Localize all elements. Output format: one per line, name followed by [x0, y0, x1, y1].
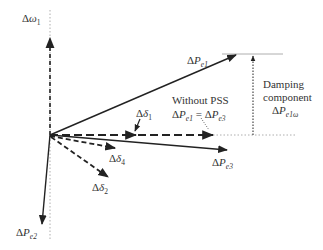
d-delta1-pointer	[135, 119, 140, 131]
d-pe1-label: ΔPe1	[187, 54, 208, 69]
without-pss-title: Without PSS	[172, 94, 229, 106]
phasor-diagram: Δω1 ΔPe1 Δδ1 Without PSS ΔPe1 = ΔPe3 Dam…	[0, 0, 323, 250]
d-delta4-label: Δδ4	[109, 152, 125, 167]
d-pe3-vector	[50, 135, 227, 150]
d-pe3-label: ΔPe3	[212, 156, 233, 171]
d-pe2-label: ΔPe2	[16, 226, 37, 241]
without-pss-equation: ΔPe1 = ΔPe3	[172, 108, 226, 123]
damping-label-line2: component	[263, 91, 312, 103]
d-omega1-label: Δω1	[22, 12, 41, 27]
damping-label-line1: Damping	[263, 78, 304, 90]
d-pe2-vector	[42, 135, 50, 224]
d-delta2-label: Δδ2	[92, 181, 108, 196]
d-delta1-label: Δδ1	[136, 107, 152, 122]
damping-symbol: ΔPe1ω	[272, 104, 298, 119]
d-delta2-vector	[51, 137, 108, 177]
